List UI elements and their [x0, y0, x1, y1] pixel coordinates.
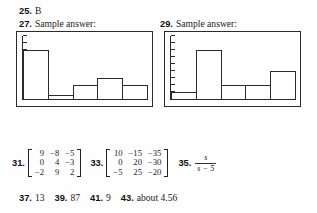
answer-entry-37: 37. 13	[19, 192, 45, 203]
fraction-35: s s − 5	[195, 153, 216, 173]
matrix-row: −292	[32, 168, 77, 177]
answer-entry-33: 33. 10−15−35020−30−525−20	[90, 149, 168, 177]
histogram-bar	[97, 78, 123, 99]
answer-text-37: 13	[35, 192, 45, 203]
answer-number-35: 35.	[178, 158, 191, 168]
answer-number-33: 33.	[90, 158, 103, 168]
matrix-31-right-bracket	[77, 149, 81, 177]
histogram-27	[16, 31, 153, 107]
matrix-row: −525−20	[110, 168, 164, 177]
answer-text-25: B	[35, 5, 41, 16]
matrix-31: 9−8−504−3−292	[28, 149, 81, 177]
fraction-35-numerator: s	[202, 153, 209, 162]
answer-number-43: 43.	[121, 193, 134, 203]
fraction-35-denominator: s − 5	[195, 163, 216, 173]
answer-entry-29: 29. Sample answer:	[160, 18, 237, 29]
answer-number-27: 27.	[19, 19, 32, 29]
histogram-29	[164, 31, 301, 107]
matrix-31-grid: 9−8−504−3−292	[32, 149, 77, 177]
histogram-bar	[23, 50, 49, 99]
answer-entry-35: 35. s s − 5	[178, 153, 216, 173]
answer-number-37: 37.	[19, 193, 32, 203]
histogram-bar	[122, 85, 148, 99]
answer-row-final: 37. 13 39. 87 41. 9 43. about 4.56	[19, 192, 187, 203]
answer-number-25: 25.	[19, 6, 32, 16]
answer-entry-31: 31. 9−8−504−3−292	[12, 149, 81, 177]
histogram-bar	[221, 85, 247, 99]
histogram-29-plot-area	[165, 32, 300, 106]
matrix-cell: 2	[62, 168, 77, 177]
answer-text-41: 9	[106, 192, 111, 203]
answer-text-27: Sample answer:	[35, 18, 96, 29]
matrix-cell: 9	[47, 168, 62, 177]
answer-text-43: about 4.56	[137, 192, 178, 203]
answer-entry-41: 41. 9	[90, 192, 111, 203]
answer-entry-25: 25. B	[19, 5, 41, 16]
matrix-cell: 25	[126, 168, 145, 177]
matrix-answer-row: 31. 9−8−504−3−292 33. 10−15−35020−30−525…	[12, 141, 312, 185]
answer-number-41: 41.	[90, 193, 103, 203]
answer-key-page: 25. B 27. Sample answer: 29. Sample answ…	[0, 0, 317, 213]
histogram-bar	[73, 85, 99, 99]
answer-entry-43: 43. about 4.56	[121, 192, 177, 203]
histogram-bar	[171, 92, 197, 99]
matrix-cell: −20	[145, 168, 164, 177]
answer-number-29: 29.	[160, 19, 173, 29]
histogram-27-plot-area	[17, 32, 152, 106]
histogram-bar	[48, 95, 74, 98]
matrix-33-grid: 10−15−35020−30−525−20	[110, 149, 164, 177]
histogram-bar	[270, 71, 296, 99]
histogram-27-bars	[23, 36, 148, 99]
histogram-bar	[245, 85, 271, 99]
histogram-29-bars	[171, 36, 296, 99]
answer-entry-39: 39. 87	[55, 192, 81, 203]
answer-number-31: 31.	[12, 158, 25, 168]
answer-entry-27: 27. Sample answer:	[19, 18, 96, 29]
matrix-33-right-bracket	[164, 149, 168, 177]
matrix-cell: −5	[110, 168, 125, 177]
histogram-27-x-axis	[22, 99, 148, 100]
answer-text-29: Sample answer:	[176, 18, 237, 29]
answer-text-39: 87	[70, 192, 80, 203]
histogram-bar	[196, 50, 222, 99]
matrix-cell: −2	[32, 168, 47, 177]
matrix-33: 10−15−35020−30−525−20	[106, 149, 168, 177]
histogram-29-x-axis	[170, 99, 296, 100]
answer-number-39: 39.	[55, 193, 68, 203]
